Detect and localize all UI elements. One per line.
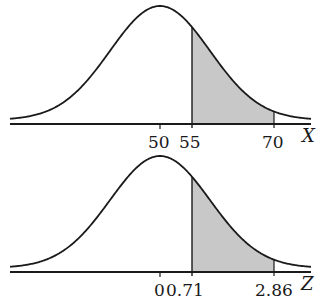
- tick-label-70: 70: [262, 132, 284, 152]
- normal-distribution-figure: 50 55 70 X 0 0.71 2.86 Z: [0, 0, 319, 305]
- tick-label-2-86: 2.86: [255, 280, 293, 300]
- axis-label-x: X: [300, 125, 316, 146]
- panel-z-distribution: 0 0.71 2.86 Z: [10, 156, 314, 300]
- tick-label-0: 0: [154, 280, 165, 300]
- tick-label-50: 50: [148, 132, 170, 152]
- panel-x-distribution: 50 55 70 X: [10, 6, 316, 152]
- tick-label-55: 55: [179, 132, 201, 152]
- bell-curve-x: [10, 6, 311, 119]
- axis-label-z: Z: [300, 273, 314, 294]
- bell-curve-z: [10, 156, 311, 267]
- tick-label-0-71: 0.71: [166, 280, 204, 300]
